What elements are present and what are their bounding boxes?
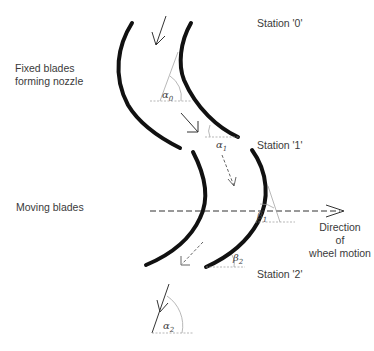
station-1-label: Station '1'	[257, 139, 302, 152]
moving-blade-right	[206, 150, 266, 267]
relative-inlet-arrow	[222, 155, 234, 186]
turbine-stage-diagram: α0 α1 β1 β2 α2	[0, 0, 374, 351]
nozzle-exit-arrow	[181, 113, 198, 132]
direction-label: Direction of wheel motion	[300, 221, 374, 260]
moving-blades-label: Moving blades	[16, 201, 84, 214]
fixed-blade-left	[118, 23, 180, 148]
station-2-label: Station '2'	[257, 268, 302, 281]
relative-inlet-arrowhead	[228, 177, 236, 186]
beta2-label: β2	[232, 252, 244, 266]
relative-exit-arrow	[182, 242, 203, 264]
fixed-blade-right	[181, 23, 238, 137]
fixed-blades-label: Fixed blades forming nozzle	[15, 62, 83, 88]
inlet-velocity-arrow	[152, 16, 166, 45]
alpha2-label: α2	[163, 320, 175, 334]
alpha1-label: α1	[216, 139, 227, 153]
moving-blade-left	[146, 152, 205, 265]
station-0-label: Station '0'	[257, 17, 302, 30]
alpha0-construction	[150, 52, 192, 101]
alpha0-label: α0	[162, 89, 174, 103]
